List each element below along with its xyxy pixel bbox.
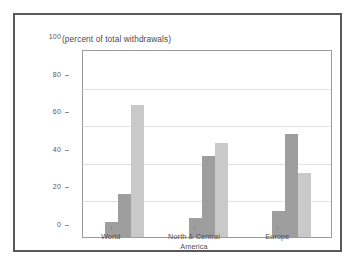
gridline [83, 89, 331, 90]
y-tick-label: 80 [37, 71, 61, 78]
bar-europe-agriculture[interactable] [298, 173, 311, 237]
plot-area [82, 50, 332, 238]
chart-figure: (percent of total withdrawals) DomesticI… [0, 0, 355, 267]
y-tick-label: 60 [37, 108, 61, 115]
y-tick-label: 0 [37, 221, 61, 228]
chart-title: (percent of total withdrawals) [62, 34, 171, 44]
y-tick-label: 40 [37, 146, 61, 153]
x-tick-label-line: North & Central [149, 232, 239, 242]
bar-north-central-america-industry[interactable] [202, 156, 215, 237]
x-tick-label: Europe [232, 232, 322, 242]
gridline [83, 126, 331, 127]
bar-world-industry[interactable] [118, 194, 131, 237]
bar-europe-industry[interactable] [285, 134, 298, 237]
x-tick-label-line: America [149, 242, 239, 252]
y-tick-mark [65, 75, 69, 76]
y-tick-label: 100 [37, 33, 61, 40]
x-tick-label-line: Europe [232, 232, 322, 242]
x-tick-mark [111, 226, 112, 230]
y-tick-label: 20 [37, 183, 61, 190]
bar-world-agriculture[interactable] [131, 105, 144, 237]
chart-frame: (percent of total withdrawals) DomesticI… [13, 13, 342, 252]
bar-north-central-america-agriculture[interactable] [215, 143, 228, 237]
y-tick-mark [65, 187, 69, 188]
y-tick-mark [65, 112, 69, 113]
y-tick-mark [65, 225, 69, 226]
y-tick-mark [65, 37, 69, 38]
x-tick-mark [277, 226, 278, 230]
x-tick-label-line: World [66, 232, 156, 242]
x-tick-label: World [66, 232, 156, 242]
x-tick-label: North & CentralAmerica [149, 232, 239, 251]
x-tick-mark [194, 226, 195, 230]
y-tick-mark [65, 150, 69, 151]
